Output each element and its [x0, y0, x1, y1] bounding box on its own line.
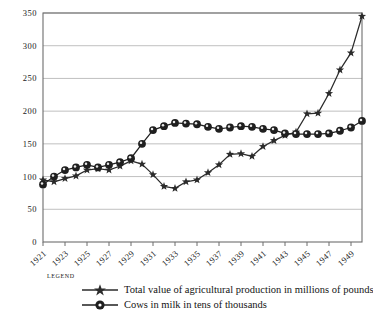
data-point-marker [83, 161, 91, 169]
y-axis-tick-label: 0 [32, 237, 37, 247]
data-point-marker [237, 122, 245, 130]
data-point-highlight [96, 165, 99, 168]
data-point-highlight [107, 163, 110, 166]
data-point-highlight [74, 165, 77, 168]
data-point-highlight [162, 124, 165, 127]
data-point-highlight [360, 119, 363, 122]
data-point-highlight [63, 168, 66, 171]
data-point-highlight [305, 132, 308, 135]
data-point-marker [94, 164, 102, 172]
x-axis-tick-label: 1931 [138, 248, 159, 268]
x-axis-tick-label: 1921 [28, 248, 49, 268]
data-point-highlight [151, 128, 154, 131]
data-point-marker [325, 129, 333, 137]
data-point-highlight [250, 125, 253, 128]
line-chart: 050100150200250300350 192119231925192719… [0, 0, 368, 268]
data-point-marker [127, 154, 135, 162]
x-axis-tick-label: 1939 [226, 248, 247, 268]
circle-line-icon [80, 298, 120, 312]
data-point-marker [248, 123, 256, 131]
data-point-marker [292, 130, 300, 138]
x-axis-tick-labels: 1921192319251927192919311933193519371939… [28, 248, 357, 268]
x-axis-tick-label: 1943 [270, 248, 291, 268]
data-point-marker [182, 120, 190, 128]
data-point-marker [215, 125, 223, 133]
data-point-highlight [129, 156, 132, 159]
y-axis-tick-label: 150 [23, 139, 37, 149]
data-point-marker [138, 140, 146, 148]
data-point-marker [259, 125, 267, 133]
data-point-highlight [294, 132, 297, 135]
data-point-highlight [184, 121, 187, 124]
x-axis-tick-label: 1925 [72, 248, 93, 268]
x-axis-tick-label: 1941 [248, 248, 269, 268]
data-point-highlight [118, 160, 121, 163]
x-axis-tick-label: 1923 [50, 248, 71, 268]
data-point-highlight [195, 122, 198, 125]
data-point-highlight [338, 129, 341, 132]
data-point-highlight [327, 131, 330, 134]
data-point-highlight [217, 127, 220, 129]
data-point-marker [336, 127, 344, 135]
y-axis-tick-label: 50 [28, 204, 38, 214]
y-axis-tick-label: 200 [23, 106, 37, 116]
data-point-highlight [52, 174, 55, 177]
data-point-highlight [261, 127, 264, 129]
data-point-highlight [173, 121, 176, 124]
data-point-marker [226, 124, 234, 132]
x-axis-tick-label: 1949 [336, 248, 357, 268]
y-axis-tick-label: 300 [23, 41, 37, 51]
data-point-marker [39, 181, 47, 189]
data-point-highlight [283, 131, 286, 134]
data-point-highlight [140, 142, 143, 145]
x-axis-tick-label: 1927 [94, 248, 115, 268]
data-point-marker [204, 123, 212, 131]
data-point-highlight [85, 163, 88, 166]
y-axis-tick-label: 250 [23, 73, 37, 83]
data-point-marker [270, 126, 278, 134]
data-point-marker [160, 122, 168, 130]
x-axis-tick-label: 1945 [292, 248, 313, 268]
chart-legend: Legend Total value of agricultural produ… [0, 268, 368, 314]
y-axis-tick-label: 100 [23, 172, 37, 182]
data-point-marker [50, 173, 58, 181]
legend-entries: Total value of agricultural production i… [80, 282, 373, 312]
legend-item-label: Total value of agricultural production i… [120, 284, 373, 295]
data-point-marker [116, 158, 124, 166]
plot-background [43, 13, 362, 242]
x-axis-tick-label: 1937 [204, 248, 225, 268]
x-axis-tick-label: 1947 [314, 248, 335, 268]
star-line-icon [80, 283, 120, 297]
data-point-highlight [41, 182, 44, 185]
legend-title: Legend [47, 270, 75, 280]
data-point-marker [171, 119, 179, 127]
data-point-marker [358, 117, 366, 125]
legend-item: Cows in milk in tens of thousands [80, 297, 373, 312]
y-axis-tick-labels: 050100150200250300350 [23, 8, 37, 247]
data-point-highlight [228, 125, 231, 128]
y-axis-tick-label: 350 [23, 8, 37, 18]
data-point-marker [303, 130, 311, 138]
data-point-highlight [316, 132, 319, 135]
data-point-marker [193, 120, 201, 128]
x-axis-tick-label: 1929 [116, 248, 137, 268]
data-point-highlight [349, 125, 352, 128]
x-axis-tick-label: 1935 [182, 248, 203, 268]
data-point-marker [314, 130, 322, 138]
data-point-highlight [272, 128, 275, 131]
x-axis-tick-label: 1933 [160, 248, 181, 268]
data-point-marker [347, 124, 355, 132]
data-point-marker [61, 166, 69, 174]
data-point-marker [281, 129, 289, 137]
x-axis-ticks [43, 242, 351, 246]
legend-item: Total value of agricultural production i… [80, 282, 373, 297]
data-point-highlight [206, 125, 209, 128]
data-point-marker [149, 126, 157, 134]
legend-item-label: Cows in milk in tens of thousands [120, 299, 267, 310]
data-point-marker [105, 161, 113, 169]
data-point-highlight [239, 124, 242, 127]
data-point-marker [72, 164, 80, 172]
